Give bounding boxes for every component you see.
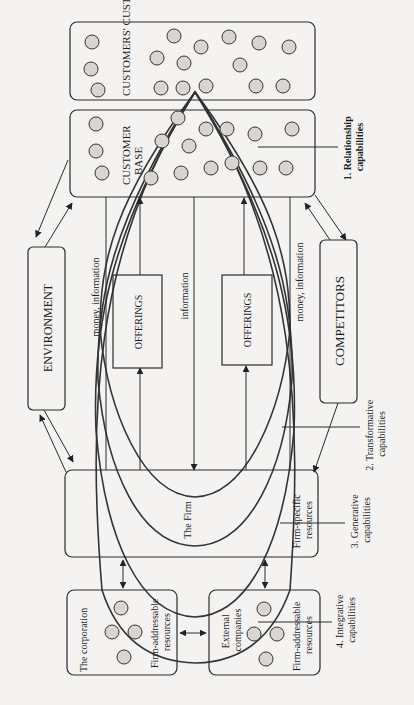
customer-base-label: CUSTOMER BASE [120, 123, 144, 185]
capability-1-label: 1. Relationship capabilities [342, 114, 365, 180]
external-companies-box: External companies Firm-addressable reso… [209, 590, 320, 675]
environment-label: ENVIRONMENT [41, 283, 55, 372]
competitors-label: COMPETITORS [332, 276, 347, 366]
capability-3-label: 3. Generative capabilities [349, 492, 372, 548]
offerings-box-2: OFFERINGS [222, 275, 272, 365]
the-firm-label: The Firm [182, 501, 193, 539]
capability-leaders [258, 147, 360, 622]
customers-customers-box: CUSTOMERS' CUSTOMERS [70, 0, 315, 100]
flow-label-center: information [179, 272, 190, 319]
environment-box: ENVIRONMENT [28, 247, 65, 410]
corporation-box: The corporation Firm-addressable resourc… [67, 590, 177, 675]
corporation-label: The corporation [78, 608, 89, 672]
flow-label-left: money, information [90, 258, 101, 337]
connector-arrows [36, 160, 346, 633]
flow-label-right: money, information [294, 243, 305, 322]
customer-base-box: CUSTOMER BASE [70, 110, 315, 197]
external-resources-label: Firm-addressable resources [291, 599, 314, 671]
firm-specific-label: Firm-specific resources [291, 492, 314, 548]
capabilities-diagram: CUSTOMERS' CUSTOMERS CUSTOMER BASE [0, 0, 414, 705]
customer-dots [84, 29, 296, 97]
external-companies-label: External companies [220, 609, 243, 652]
capability-4-label: 4. Integrative capabilities [334, 592, 357, 648]
competitors-box: COMPETITORS [320, 240, 357, 403]
customers-customers-label: CUSTOMERS' CUSTOMERS [120, 0, 132, 96]
offerings-box-1: OFFERINGS [113, 275, 162, 368]
capability-labels: 1. Relationship capabilities 2. Transfor… [334, 114, 387, 648]
offerings-label-2: OFFERINGS [242, 293, 253, 347]
offerings-label-1: OFFERINGS [133, 295, 144, 349]
capability-2-label: 2. Transformative capabilities [364, 397, 387, 471]
